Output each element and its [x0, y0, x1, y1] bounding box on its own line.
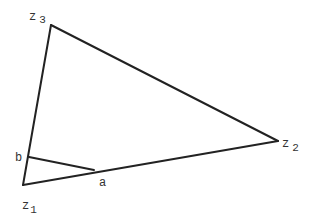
label-z2: z2 [282, 137, 299, 154]
label-b: b [15, 151, 22, 165]
label-z3: z3 [29, 10, 46, 26]
triangle-diagram: z3 z2 z1 b a [0, 0, 315, 218]
label-a: a [99, 176, 106, 190]
label-z1: z1 [22, 199, 37, 216]
edge-z2-z3 [51, 25, 278, 141]
diagram-canvas: z3 z2 z1 b a [0, 0, 315, 218]
segment-b-a [29, 157, 94, 170]
